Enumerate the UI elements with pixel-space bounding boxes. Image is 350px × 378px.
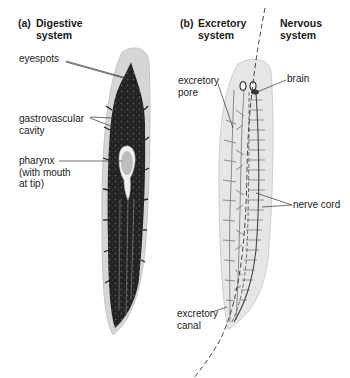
label-nerve-cord: nerve cord [293, 199, 340, 211]
label-gastrovascular-cavity: gastrovascular cavity [19, 113, 84, 136]
label-eyespots: eyespots [19, 53, 59, 65]
eyespot-icon [240, 82, 246, 90]
label-pharynx: pharynx (with mouth at tip) [19, 155, 71, 190]
eyespot-icon [134, 81, 137, 84]
label-excretory-canal: excretory canal [177, 308, 218, 331]
label-brain: brain [287, 73, 309, 85]
label-excretory-pore: excretory pore [178, 75, 219, 98]
